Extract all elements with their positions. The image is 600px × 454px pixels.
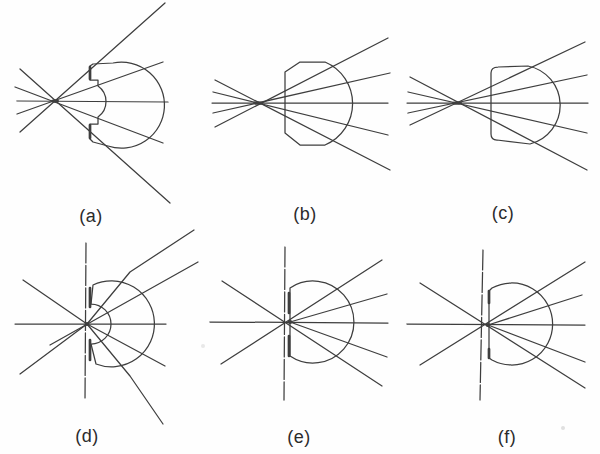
ray: [290, 322, 387, 357]
focal-point-dot: [85, 322, 90, 326]
scan-speck: [201, 344, 205, 348]
panel-f: [407, 250, 585, 400]
ray: [221, 260, 382, 364]
ray: [420, 262, 585, 365]
panel-c-label: (c): [492, 203, 515, 224]
ray: [213, 92, 388, 135]
panel-a-label: (a): [79, 206, 103, 227]
focal-point-dot: [486, 323, 491, 327]
focal-point-dot: [452, 101, 462, 105]
ray: [17, 101, 168, 102]
ray: [410, 77, 587, 170]
ray: [20, 69, 170, 203]
panel-a: [15, 3, 170, 203]
lens-outline: [491, 66, 560, 144]
ray: [488, 295, 582, 325]
panel-e: [210, 247, 388, 400]
ray: [290, 294, 387, 322]
ray: [215, 80, 390, 170]
panel-d: [15, 230, 198, 424]
ray: [85, 243, 86, 400]
panel-b-label: (b): [293, 204, 317, 225]
focal-point-dot: [288, 320, 293, 324]
ray: [210, 322, 388, 323]
panel-d-label: (d): [75, 426, 99, 447]
ray: [222, 281, 382, 386]
ray: [420, 283, 585, 388]
panel-f-label: (f): [498, 427, 517, 448]
scan-speck: [561, 426, 565, 430]
ray-diagram-figure: (a) (b) (c) (d) (e) (f): [0, 0, 600, 454]
ray: [20, 230, 194, 374]
panel-c: [407, 42, 588, 170]
ray: [50, 262, 198, 345]
panel-b: [212, 38, 390, 170]
figure-canvas: [0, 0, 600, 454]
ray: [407, 324, 585, 325]
focal-point-dot: [51, 99, 59, 102]
focal-point-dot: [253, 101, 263, 105]
panel-e-label: (e): [287, 427, 311, 448]
